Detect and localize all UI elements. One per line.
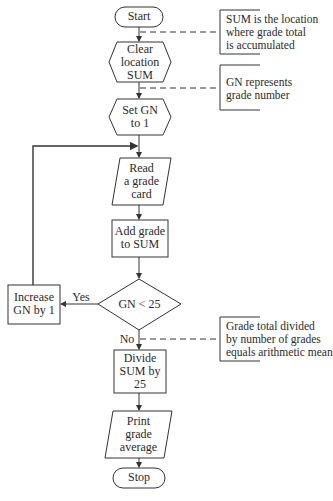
add-label: Add grade to SUM [112, 225, 168, 251]
read-label: Read a grade card [112, 162, 171, 201]
divide-label: Divide SUM by 25 [114, 352, 166, 391]
annotation-gn-note: GN represents grade number [226, 76, 292, 102]
start-label: Start [115, 10, 163, 23]
stop-label: Stop [113, 471, 165, 484]
clear-label: Clear location SUM [109, 43, 171, 82]
no-edge-label: No [117, 333, 137, 346]
set-label: Set GN to 1 [109, 104, 171, 130]
annotation-sum-note: SUM is the location where grade total is… [226, 13, 318, 52]
print-label: Print grade average [105, 415, 172, 454]
annotation-mean-note: Grade total divided by number of grades … [226, 320, 333, 359]
yes-edge-label: Yes [68, 291, 94, 304]
increase-label: Increase GN by 1 [8, 291, 60, 317]
decision-label: GN < 25 [98, 298, 181, 311]
